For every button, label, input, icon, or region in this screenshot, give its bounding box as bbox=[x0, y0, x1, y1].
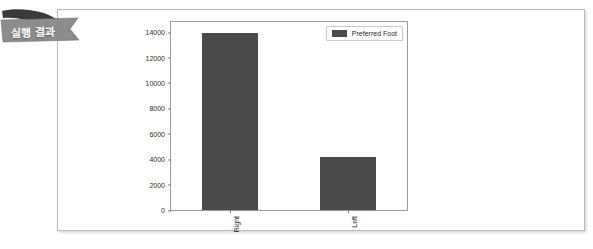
banner-label: 실행 결과 bbox=[11, 23, 56, 40]
y-axis-tick-label: 10000 bbox=[146, 79, 171, 86]
execution-result-banner: 실행 결과 bbox=[0, 7, 92, 47]
legend-label-preferred-foot: Preferred Foot bbox=[352, 30, 397, 37]
bar-right bbox=[202, 33, 259, 210]
y-axis-tick-label: 4000 bbox=[149, 156, 171, 163]
chart-legend: Preferred Foot bbox=[326, 26, 403, 41]
y-axis-tick-label: 12000 bbox=[146, 54, 171, 61]
bar-chart-figure: 02000400060008000100001200014000 RightLe… bbox=[113, 12, 423, 242]
x-axis-tick-label: Left bbox=[351, 216, 358, 228]
x-axis-tick-label: Right bbox=[233, 216, 240, 232]
x-axis-tick-mark bbox=[348, 210, 349, 213]
y-axis-tick-label: 14000 bbox=[146, 29, 171, 36]
legend-swatch-preferred-foot bbox=[332, 30, 347, 37]
y-axis-tick-label: 2000 bbox=[149, 181, 171, 188]
y-axis-tick-label: 0 bbox=[161, 207, 171, 214]
y-axis-tick-label: 8000 bbox=[149, 105, 171, 112]
y-axis-tick-label: 6000 bbox=[149, 130, 171, 137]
x-axis-tick-mark bbox=[230, 210, 231, 213]
bar-left bbox=[320, 157, 377, 210]
plot-area: 02000400060008000100001200014000 RightLe… bbox=[170, 21, 408, 211]
